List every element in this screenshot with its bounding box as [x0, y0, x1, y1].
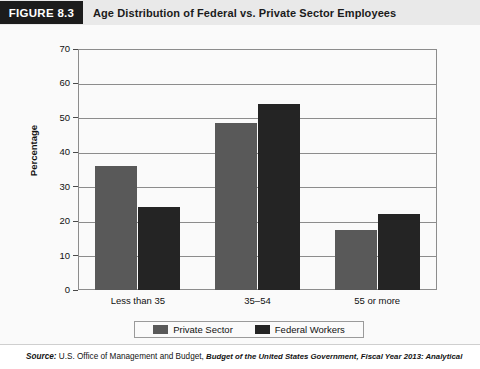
x-axis-tick-label: Less than 35	[78, 295, 198, 306]
y-axis-title: Percentage	[28, 101, 39, 201]
bar-federal-workers	[378, 214, 420, 290]
source-note: Source: U.S. Office of Management and Bu…	[26, 352, 476, 362]
bar-private-sector	[215, 123, 257, 290]
bar-private-sector	[335, 230, 377, 290]
y-axis-tick	[73, 290, 78, 291]
y-axis-tick	[73, 255, 78, 256]
source-text: U.S. Office of Management and Budget,	[56, 352, 206, 361]
bars-layer	[78, 49, 437, 290]
legend-label: Federal Workers	[275, 324, 345, 335]
legend-label: Private Sector	[173, 324, 233, 335]
y-axis-tick-label: 0	[44, 285, 70, 295]
y-axis-tick	[73, 49, 78, 50]
x-axis-tick-label: 55 or more	[317, 295, 437, 306]
source-divider	[0, 344, 480, 345]
legend-item-private-sector: Private Sector	[153, 324, 233, 335]
y-axis-tick-label: 10	[44, 251, 70, 261]
figure-number-badge: FIGURE 8.3	[0, 1, 83, 24]
figure-title: Age Distribution of Federal vs. Private …	[93, 1, 396, 24]
y-axis-tick-label: 50	[44, 113, 70, 123]
y-axis-tick-label: 60	[44, 78, 70, 88]
x-axis-tick-label: 35–54	[198, 295, 318, 306]
source-label: Source:	[26, 352, 56, 361]
bar-federal-workers	[258, 104, 300, 290]
bar-chart: Percentage Less than 3535–5455 or more P…	[0, 25, 480, 344]
y-axis-tick	[73, 117, 78, 118]
chart-legend: Private SectorFederal Workers	[134, 321, 364, 338]
y-axis-tick	[73, 186, 78, 187]
figure-header: FIGURE 8.3 Age Distribution of Federal v…	[0, 0, 480, 25]
figure-body: Percentage Less than 3535–5455 or more P…	[0, 25, 480, 344]
y-axis-tick	[73, 221, 78, 222]
y-axis-tick-label: 40	[44, 147, 70, 157]
legend-swatch-icon	[153, 325, 168, 334]
bar-private-sector	[95, 166, 137, 290]
bar-federal-workers	[138, 207, 180, 290]
source-citation: Budget of the United States Government, …	[206, 352, 462, 361]
legend-item-federal-workers: Federal Workers	[255, 324, 345, 335]
y-axis-tick	[73, 152, 78, 153]
y-axis-tick-label: 30	[44, 182, 70, 192]
y-axis-tick	[73, 83, 78, 84]
legend-swatch-icon	[255, 325, 270, 334]
y-axis-tick-label: 70	[44, 44, 70, 54]
y-axis-tick-label: 20	[44, 216, 70, 226]
